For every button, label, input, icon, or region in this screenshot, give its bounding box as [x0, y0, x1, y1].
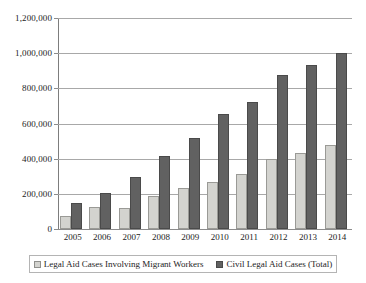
plot-area [58, 18, 352, 229]
y-tick-mark [54, 53, 58, 54]
x-tick-label-2014: 2014 [317, 232, 357, 243]
bar-chart: 1,200,0001,000,000800,000600,000400,0002… [0, 0, 366, 283]
bar-group [323, 18, 352, 229]
bar-group [293, 18, 322, 229]
bar-migrant-workers-2012 [266, 159, 277, 229]
bar-group [117, 18, 146, 229]
legend-label-civil-total: Civil Legal Aid Cases (Total) [226, 259, 332, 269]
y-tick-mark [54, 124, 58, 125]
y-tick-label: 800,000 [22, 84, 52, 93]
y-tick-label: 600,000 [22, 120, 52, 129]
bar-civil-total-2010 [218, 114, 229, 229]
bars-layer [58, 18, 352, 229]
legend-label-migrant-workers: Legal Aid Cases Involving Migrant Worker… [44, 259, 204, 269]
bar-group [146, 18, 175, 229]
bar-group [205, 18, 234, 229]
bar-civil-total-2009 [189, 138, 200, 229]
series-b-swatch-icon [216, 261, 223, 268]
bar-group [58, 18, 87, 229]
bar-group [176, 18, 205, 229]
bar-civil-total-2012 [277, 75, 288, 229]
bar-civil-total-2006 [100, 193, 111, 229]
y-tick-mark [54, 194, 58, 195]
bar-migrant-workers-2010 [207, 182, 218, 229]
bar-group [87, 18, 116, 229]
y-tick-label: 0 [47, 225, 52, 234]
bar-migrant-workers-2008 [148, 196, 159, 229]
bar-group [234, 18, 263, 229]
bar-civil-total-2008 [159, 156, 170, 229]
gridline [58, 229, 352, 230]
bar-civil-total-2005 [71, 203, 82, 229]
legend-item-migrant-workers: Legal Aid Cases Involving Migrant Worker… [34, 259, 204, 269]
bar-civil-total-2013 [306, 65, 317, 229]
bar-migrant-workers-2013 [295, 153, 306, 229]
bar-migrant-workers-2006 [89, 207, 100, 230]
series-a-swatch-icon [34, 261, 41, 268]
bar-civil-total-2014 [336, 53, 347, 229]
y-tick-label: 1,000,000 [15, 49, 52, 58]
y-tick-mark [54, 88, 58, 89]
y-tick-label: 400,000 [22, 155, 52, 164]
legend-item-civil-total: Civil Legal Aid Cases (Total) [216, 259, 332, 269]
bar-group [264, 18, 293, 229]
x-axis-labels: 2005200620072008200920102011201220132014 [58, 232, 352, 248]
bar-migrant-workers-2011 [236, 174, 247, 229]
bar-civil-total-2007 [130, 177, 141, 229]
y-tick-label: 1,200,000 [15, 14, 52, 23]
bar-migrant-workers-2007 [119, 208, 130, 229]
y-tick-mark [54, 159, 58, 160]
bar-civil-total-2011 [247, 102, 258, 229]
bar-migrant-workers-2014 [325, 145, 336, 229]
chart-legend: Legal Aid Cases Involving Migrant Worker… [29, 255, 337, 273]
y-tick-mark [54, 18, 58, 19]
y-tick-mark [54, 229, 58, 230]
bar-migrant-workers-2005 [60, 216, 71, 229]
bar-migrant-workers-2009 [178, 188, 189, 229]
y-tick-label: 200,000 [22, 190, 52, 199]
